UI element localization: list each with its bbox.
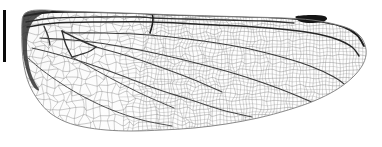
- cross-vein: [23, 128, 367, 133]
- dragonfly-wing-illustration: [0, 0, 382, 147]
- cross-vein: [362, 10, 364, 131]
- wing-figure: [0, 0, 382, 147]
- cross-vein: [365, 10, 367, 131]
